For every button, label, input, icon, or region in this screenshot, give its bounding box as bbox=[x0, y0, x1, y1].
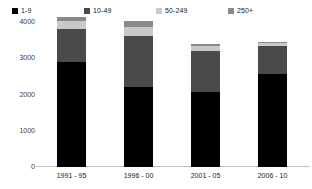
bar-group[interactable] bbox=[124, 21, 153, 167]
bar-segment[interactable] bbox=[124, 27, 153, 35]
legend-swatch-icon bbox=[84, 8, 90, 14]
x-axis: 1991 - 951996 - 002001 - 052006 - 10 bbox=[40, 171, 308, 183]
y-axis-tick-label: 0 bbox=[31, 163, 35, 171]
bar-segment[interactable] bbox=[57, 62, 86, 167]
legend-item-label: 10-49 bbox=[93, 7, 111, 15]
y-axis-tick-label: 2000 bbox=[19, 91, 35, 99]
legend-item[interactable]: 1-9 bbox=[12, 7, 84, 15]
bar-segment[interactable] bbox=[57, 29, 86, 62]
bar-segment[interactable] bbox=[124, 87, 153, 167]
x-axis-tick-label: 1996 - 00 bbox=[109, 171, 169, 180]
legend-swatch-icon bbox=[12, 8, 18, 14]
legend-swatch-icon bbox=[228, 8, 234, 14]
bar-group[interactable] bbox=[258, 42, 287, 167]
x-axis-tick-label: 2006 - 10 bbox=[243, 171, 303, 180]
bar-segment[interactable] bbox=[258, 74, 287, 167]
stacked-bar-chart: 1-910-4950-249250+ 40003000200010000 199… bbox=[0, 0, 312, 189]
legend-item-label: 250+ bbox=[237, 7, 253, 15]
legend-swatch-icon bbox=[156, 8, 162, 14]
plot-area bbox=[40, 22, 308, 167]
legend-item[interactable]: 250+ bbox=[228, 7, 300, 15]
y-axis-tick-label: 1000 bbox=[19, 127, 35, 135]
bar-segment[interactable] bbox=[124, 36, 153, 87]
x-axis-tick-label: 1991 - 95 bbox=[42, 171, 102, 180]
chart-legend: 1-910-4950-249250+ bbox=[0, 4, 312, 18]
bar-group[interactable] bbox=[57, 17, 86, 167]
legend-item-label: 50-249 bbox=[165, 7, 187, 15]
bar-segment[interactable] bbox=[191, 92, 220, 167]
x-axis-tick-label: 2001 - 05 bbox=[176, 171, 236, 180]
legend-item[interactable]: 10-49 bbox=[84, 7, 156, 15]
bar-group[interactable] bbox=[191, 44, 220, 167]
bar-segment[interactable] bbox=[57, 21, 86, 29]
y-axis-tick-label: 4000 bbox=[19, 18, 35, 26]
legend-item-label: 1-9 bbox=[21, 7, 31, 15]
y-axis-tick-label: 3000 bbox=[19, 54, 35, 62]
legend-item[interactable]: 50-249 bbox=[156, 7, 228, 15]
bar-segment[interactable] bbox=[191, 51, 220, 92]
bar-segment[interactable] bbox=[258, 46, 287, 74]
y-axis: 40003000200010000 bbox=[0, 22, 38, 167]
